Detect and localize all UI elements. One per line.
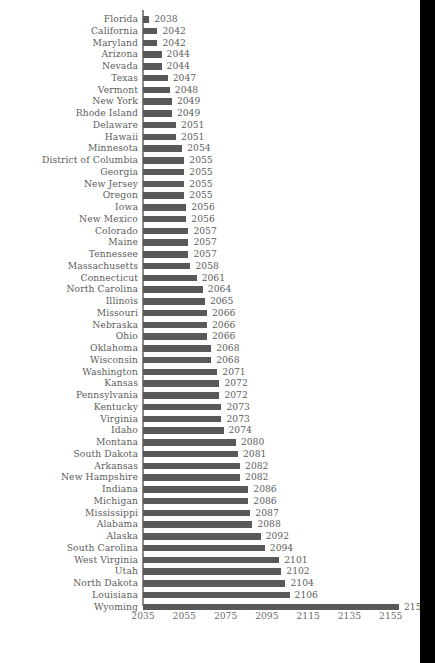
bar-row: Ohio2066 (0, 332, 420, 342)
bar (143, 192, 184, 198)
bar-value-label: 2064 (208, 283, 231, 294)
bar-category-label: Utah (4, 565, 138, 576)
x-axis-tick-label: 2075 (214, 610, 237, 621)
bar-value-label: 2071 (222, 366, 245, 377)
bar (143, 345, 211, 351)
bar-value-label: 2056 (191, 213, 214, 224)
bar-category-label: Kentucky (4, 401, 138, 412)
bar-row: Oregon2055 (0, 191, 420, 201)
bar-value-label: 2104 (290, 577, 313, 588)
bar-category-label: Maine (4, 236, 138, 247)
bar-value-label: 2061 (202, 272, 225, 283)
bar (143, 181, 184, 187)
bar-value-label: 2054 (187, 142, 210, 153)
bar-value-label: 2051 (181, 119, 204, 130)
bar-category-label: Connecticut (4, 272, 138, 283)
bar-value-label: 2056 (191, 201, 214, 212)
x-axis-tick-label: 2155 (379, 610, 402, 621)
bar-category-label: North Carolina (4, 283, 138, 294)
bar-category-label: New Hampshire (4, 471, 138, 482)
bar-value-label: 2082 (245, 471, 268, 482)
bar-row: Oklahoma2068 (0, 344, 420, 354)
bar-value-label: 2072 (224, 389, 247, 400)
bar (143, 51, 162, 57)
bar (143, 204, 186, 210)
bar (143, 404, 221, 410)
bar-row: Massachusetts2058 (0, 262, 420, 272)
bar-category-label: Colorado (4, 225, 138, 236)
bar (143, 110, 172, 116)
bar-category-label: Wisconsin (4, 354, 138, 365)
bar-value-label: 2047 (173, 72, 196, 83)
bar (143, 145, 182, 151)
bar-value-label: 2068 (216, 342, 239, 353)
bar (143, 451, 238, 457)
bar (143, 251, 188, 257)
bar-value-label: 2066 (212, 330, 235, 341)
bar-row: Arkansas2082 (0, 462, 420, 472)
bar (143, 369, 217, 375)
bar (143, 510, 250, 516)
plot-area: Florida2038California2042Maryland2042Ari… (0, 0, 420, 663)
bar (143, 380, 219, 386)
bar-row: Maine2057 (0, 238, 420, 248)
bar (143, 416, 221, 422)
bar (143, 357, 211, 363)
bar (143, 322, 207, 328)
bar-category-label: Massachusetts (4, 260, 138, 271)
bar (143, 333, 207, 339)
bar-value-label: 2049 (177, 107, 200, 118)
bar-row: Georgia2055 (0, 168, 420, 178)
bar-value-label: 2049 (177, 95, 200, 106)
bar-row: Arizona2044 (0, 50, 420, 60)
bar-value-label: 2081 (243, 448, 266, 459)
bar-category-label: Oregon (4, 189, 138, 200)
bar (143, 592, 290, 598)
bar-category-label: Florida (4, 13, 138, 24)
bar-category-label: Iowa (4, 201, 138, 212)
bar (143, 134, 176, 140)
bar-value-label: 2066 (212, 307, 235, 318)
bar-row: Missouri2066 (0, 309, 420, 319)
bar-value-label: 2055 (189, 178, 212, 189)
bar-row: North Dakota2104 (0, 579, 420, 589)
x-axis: 2035205520752095211521352155 (0, 608, 420, 632)
bar (143, 545, 265, 551)
bar-row: South Carolina2094 (0, 544, 420, 554)
bar-value-label: 2073 (226, 413, 249, 424)
bar-value-label: 2058 (195, 260, 218, 271)
bar-row: Illinois2065 (0, 297, 420, 307)
bar (143, 216, 186, 222)
bar-value-label: 2044 (167, 60, 190, 71)
bar-row: New Mexico2056 (0, 215, 420, 225)
bar-row: Minnesota2054 (0, 144, 420, 154)
bar-value-label: 2042 (162, 25, 185, 36)
bar (143, 239, 188, 245)
bar-value-label: 2068 (216, 354, 239, 365)
bar-category-label: Hawaii (4, 131, 138, 142)
bar-category-label: Oklahoma (4, 342, 138, 353)
bar-row: Rhode Island2049 (0, 109, 420, 119)
bar-category-label: New Mexico (4, 213, 138, 224)
bar-value-label: 2055 (189, 154, 212, 165)
bar-value-label: 2074 (229, 424, 252, 435)
bar (143, 263, 190, 269)
bar-category-label: Alabama (4, 518, 138, 529)
bar-category-label: South Carolina (4, 542, 138, 553)
bar-category-label: Idaho (4, 424, 138, 435)
bar-row: New Hampshire2082 (0, 473, 420, 483)
bar-value-label: 2088 (257, 518, 280, 529)
bar-category-label: Kansas (4, 377, 138, 388)
bar (143, 521, 252, 527)
bar-row: Tennessee2057 (0, 250, 420, 260)
bar-category-label: Montana (4, 436, 138, 447)
bar-row: California2042 (0, 27, 420, 37)
bar-value-label: 2044 (167, 48, 190, 59)
bar-row: Hawaii2051 (0, 133, 420, 143)
bar-row: District of Columbia2055 (0, 156, 420, 166)
bar-category-label: Indiana (4, 483, 138, 494)
bar-value-label: 2051 (181, 131, 204, 142)
bar-row: New Jersey2055 (0, 180, 420, 190)
bar-value-label: 2080 (241, 436, 264, 447)
bar (143, 310, 207, 316)
